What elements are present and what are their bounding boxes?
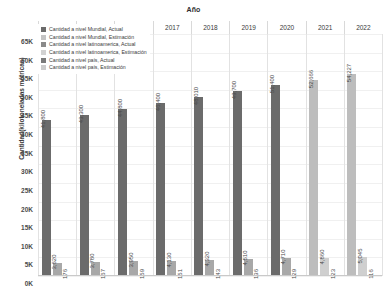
bar-group: 48,0104,320143 <box>191 34 229 276</box>
y-axis-tick-label: 5K <box>25 261 33 268</box>
bar-value-label: 4,320 <box>204 251 210 266</box>
bar: 41,800 <box>42 120 51 276</box>
bar: 52,666 <box>309 80 318 276</box>
y-axis-tick-label: 65K <box>21 38 33 45</box>
bar-value-label: 49,700 <box>231 81 237 99</box>
bar-value-label: 48,010 <box>193 87 199 105</box>
bar: 46,400 <box>156 103 165 276</box>
legend-item[interactable]: Cantidad a nivel Mundial, Actual <box>41 26 147 34</box>
x-axis-year-label: 2017 <box>153 21 191 34</box>
bar: 44,800 <box>118 109 127 276</box>
bar-value-label: 129 <box>291 269 297 279</box>
legend-swatch-icon <box>41 50 46 55</box>
x-axis-line <box>38 275 382 276</box>
legend-swatch-icon <box>41 27 46 32</box>
bar-value-label: 3,950 <box>128 253 134 268</box>
y-axis-tick-label: 50K <box>21 93 33 100</box>
bar-fill <box>271 85 280 276</box>
legend-item[interactable]: Cantidad a nivel país, Estimación <box>41 64 147 72</box>
x-axis-year-label: 2022 <box>344 21 382 34</box>
bar: 4,320 <box>205 260 214 276</box>
bar: 43,300 <box>80 115 89 276</box>
bar-value-label: 3,620 <box>51 254 57 269</box>
bar-value-label: 167 <box>100 269 106 279</box>
column-separator <box>382 34 383 276</box>
y-axis: 65K60K55K50K45K40K35K30K25K20K15K10K5K0K <box>0 34 36 276</box>
y-axis-tick-label: 10K <box>21 242 33 249</box>
bar: 48,010 <box>194 97 203 276</box>
bar-fill <box>309 80 318 276</box>
bar: 5,045 <box>358 257 367 276</box>
bar-value-label: 143 <box>215 269 221 279</box>
legend-item-label: Cantidad a nivel latinoamerica, Actual <box>49 42 136 47</box>
y-axis-tick-label: 0K <box>25 280 33 287</box>
y-axis-tick-label: 15K <box>21 224 33 231</box>
legend-swatch-icon <box>41 42 46 47</box>
x-axis-year-label: 2019 <box>229 21 267 34</box>
y-axis-tick-label: 35K <box>21 149 33 156</box>
legend-item-label: Cantidad a nivel país, Actual <box>49 58 114 63</box>
bar-fill <box>347 74 356 276</box>
bar: 51,400 <box>271 85 280 276</box>
bar-value-label: 51,400 <box>269 74 275 92</box>
legend-item[interactable]: Cantidad a nivel latinoamerica, Estimaci… <box>41 49 147 57</box>
y-axis-tick-label: 25K <box>21 186 33 193</box>
x-axis-year-label: 2020 <box>267 21 305 34</box>
legend-item[interactable]: Cantidad a nivel Mundial, Estimación <box>41 34 147 42</box>
bar-value-label: 41,800 <box>40 110 46 128</box>
bar-group: 49,7004,510136 <box>229 34 267 276</box>
bar-value-label: 44,800 <box>117 99 123 117</box>
y-axis-tick-label: 20K <box>21 205 33 212</box>
bar-fill <box>233 91 242 276</box>
bar: 54,227 <box>347 74 356 276</box>
bar-value-label: 46,400 <box>155 93 161 111</box>
bar: 4,860 <box>320 258 329 276</box>
bar-fill <box>156 103 165 276</box>
bar-fill <box>194 97 203 276</box>
bar-value-label: 176 <box>62 269 68 279</box>
bar-value-label: 54,227 <box>346 64 352 82</box>
bar-value-label: 123 <box>330 269 336 279</box>
bar: 4,710 <box>282 258 291 276</box>
bar-value-label: 159 <box>139 269 145 279</box>
y-axis-tick-label: 45K <box>21 112 33 119</box>
x-axis-year-label: 2021 <box>306 21 344 34</box>
x-axis-year-label: 2018 <box>191 21 229 34</box>
bar-value-label: 52,666 <box>308 70 314 88</box>
legend-swatch-icon <box>41 35 46 40</box>
legend-item-label: Cantidad a nivel Mundial, Actual <box>49 27 123 32</box>
y-axis-tick-label: 40K <box>21 131 33 138</box>
legend-swatch-icon <box>41 58 46 63</box>
bar-value-label: 151 <box>177 269 183 279</box>
legend-item-label: Cantidad a nivel Mundial, Estimación <box>49 35 134 40</box>
bar-fill <box>80 115 89 276</box>
legend-item[interactable]: Cantidad a nivel país, Actual <box>41 56 147 64</box>
bar: 4,510 <box>244 259 253 276</box>
bar: 4,130 <box>167 261 176 276</box>
bar-group: 46,4004,130151 <box>153 34 191 276</box>
bar-value-label: 4,860 <box>319 249 325 264</box>
bar-value-label: 5,045 <box>357 249 363 264</box>
x-axis-title: Año <box>0 6 387 13</box>
bar: 3,950 <box>129 261 138 276</box>
bar-group: 52,6664,860123 <box>306 34 344 276</box>
bar: 49,700 <box>233 91 242 276</box>
bar-fill <box>42 120 51 276</box>
bar-group: 54,2275,045116 <box>344 34 382 276</box>
legend-item-label: Cantidad a nivel latinoamerica, Estimaci… <box>49 50 147 55</box>
bar-group: 51,4004,710129 <box>267 34 305 276</box>
y-axis-tick-label: 60K <box>21 56 33 63</box>
y-axis-tick-label: 30K <box>21 168 33 175</box>
legend-item[interactable]: Cantidad a nivel latinoamerica, Actual <box>41 41 147 49</box>
bar-value-label: 136 <box>253 269 259 279</box>
bar-value-label: 4,510 <box>242 251 248 266</box>
bar-value-label: 43,300 <box>78 105 84 123</box>
bar: 3,620 <box>53 263 62 276</box>
legend-swatch-icon <box>41 65 46 70</box>
legend-item-label: Cantidad a nivel país, Estimación <box>49 65 126 70</box>
bar-value-label: 4,710 <box>280 250 286 265</box>
y-axis-tick-label: 55K <box>21 75 33 82</box>
bar-fill <box>118 109 127 276</box>
bar-value-label: 116 <box>368 269 374 279</box>
bar-value-label: 4,130 <box>166 252 172 267</box>
